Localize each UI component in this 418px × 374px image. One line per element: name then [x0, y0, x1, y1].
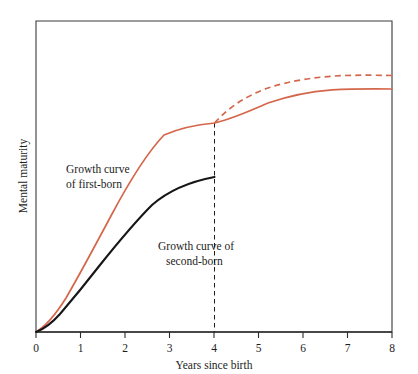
x-tick-label-8: 8 — [389, 342, 395, 354]
x-axis-title: Years since birth — [176, 359, 253, 371]
annotation-second-born-line2: second-born — [166, 255, 223, 267]
x-axis-tick-labels: 0 1 2 3 4 5 6 7 8 — [33, 342, 395, 354]
chart-container: 0 1 2 3 4 5 6 7 8 Years since birth Ment… — [0, 0, 418, 374]
x-tick-label-5: 5 — [256, 342, 262, 354]
annotation-first-born-line2: of first-born — [66, 178, 122, 190]
x-tick-label-7: 7 — [345, 342, 351, 354]
x-tick-label-2: 2 — [122, 342, 128, 354]
annotation-first-born-line1: Growth curve — [66, 163, 130, 175]
x-tick-label-1: 1 — [78, 342, 84, 354]
x-tick-label-0: 0 — [33, 342, 39, 354]
annotation-second-born-line1: Growth curve of — [158, 240, 234, 252]
x-tick-label-6: 6 — [300, 342, 306, 354]
x-tick-label-3: 3 — [167, 342, 173, 354]
y-axis-title: Mental maturity — [17, 139, 30, 214]
x-tick-label-4: 4 — [211, 342, 217, 354]
growth-curve-chart: 0 1 2 3 4 5 6 7 8 Years since birth Ment… — [0, 0, 418, 374]
x-axis-ticks — [36, 332, 392, 338]
